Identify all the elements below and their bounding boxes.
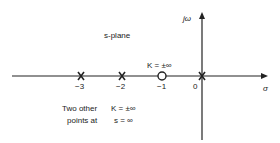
tick-label: −2: [116, 82, 125, 91]
note-line2-left: points at: [67, 116, 97, 125]
imaginary-axis-label: jω: [183, 14, 191, 23]
tick-label: −1: [157, 82, 166, 91]
note-line1-right: K = ±∞: [111, 104, 136, 113]
zero-marker-icon: [158, 72, 166, 80]
real-axis-label: σ: [263, 84, 268, 93]
plane-label: s-plane: [104, 31, 130, 40]
tick-label: −3: [75, 82, 84, 91]
imaginary-axis-arrow-icon: [199, 12, 205, 19]
s-plane-diagram: [0, 0, 280, 143]
zero-annotation: K = ±∞: [147, 61, 172, 70]
note-line1-left: Two other: [62, 104, 97, 113]
real-axis-arrow-icon: [261, 73, 268, 79]
tick-label: 0: [193, 82, 197, 91]
note-line2-right: s = ∞: [114, 116, 133, 125]
